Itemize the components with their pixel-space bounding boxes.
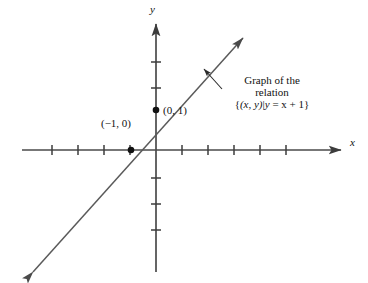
graph-annotation: Graph of the relation {(x, y)|y = x + 1}: [220, 75, 324, 111]
coordinate-plane-figure: y x (−1, 0) (0, 1) Graph of the relation…: [0, 0, 368, 283]
x-intercept-label: (−1, 0): [101, 118, 131, 130]
relation-line: [33, 38, 243, 272]
point-marker-y-intercept: [153, 107, 160, 114]
set-close-brace: }: [304, 98, 309, 110]
graph-canvas: [0, 0, 368, 283]
set-ordered-pair: (x, y): [240, 98, 263, 110]
annotation-set-notation: {(x, y)|y = x + 1}: [220, 99, 324, 111]
y-axis-label: y: [150, 4, 155, 16]
point-marker-x-intercept: [128, 147, 135, 154]
y-axis: [151, 24, 161, 272]
x-axis-label: x: [350, 137, 355, 149]
y-intercept-label: (0, 1): [163, 105, 187, 117]
x-axis: [22, 145, 341, 155]
set-expression-body: = x + 1: [270, 98, 304, 110]
